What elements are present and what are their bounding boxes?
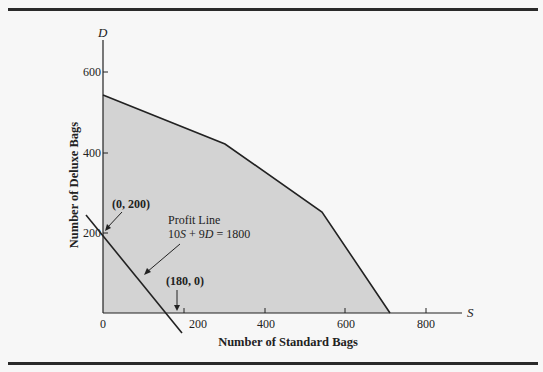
eq-part-1: 10 bbox=[168, 227, 180, 241]
figure-frame: D S 600 400 200 0 200 400 600 800 Number… bbox=[0, 0, 543, 372]
eq-part-3: = 1800 bbox=[213, 227, 250, 241]
y-tick-label-600: 600 bbox=[83, 65, 101, 79]
y-axis-title: Number of Deluxe Bags bbox=[67, 122, 81, 249]
linear-programming-chart: D S 600 400 200 0 200 400 600 800 Number… bbox=[0, 0, 543, 372]
eq-part-2: + 9 bbox=[186, 227, 205, 241]
x-tick-label-400: 400 bbox=[257, 317, 275, 331]
x-tick-label-600: 600 bbox=[337, 317, 355, 331]
profit-line-equation: 10S + 9D = 1800 bbox=[168, 227, 250, 241]
x-axis-title: Number of Standard Bags bbox=[218, 335, 358, 349]
eq-var-d: D bbox=[204, 227, 214, 241]
x-axis-variable: S bbox=[467, 305, 474, 320]
annotation-point-180-0: (180, 0) bbox=[166, 274, 204, 288]
y-axis-variable: D bbox=[97, 25, 108, 40]
profit-line-label: Profit Line bbox=[168, 213, 220, 227]
bottom-rule bbox=[8, 362, 538, 365]
x-tick-label-800: 800 bbox=[417, 317, 435, 331]
x-tick-label-200: 200 bbox=[189, 317, 207, 331]
y-tick-label-200: 200 bbox=[83, 226, 101, 240]
annotation-point-0-200: (0, 200) bbox=[112, 197, 150, 211]
x-tick-label-0: 0 bbox=[100, 317, 106, 331]
y-tick-label-400: 400 bbox=[83, 146, 101, 160]
